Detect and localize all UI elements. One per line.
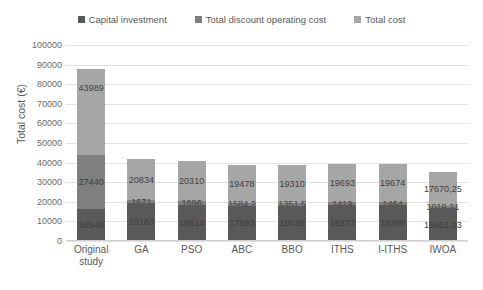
y-tick-label: 20000 (37, 197, 62, 207)
y-tick-label: 60000 (37, 118, 62, 128)
y-tick-label: 70000 (37, 99, 62, 109)
bar-value-label: 19693 (330, 178, 355, 188)
x-axis-label: Original study (66, 244, 116, 268)
gridline (66, 241, 468, 242)
stacked-bar-chart: Capital investmentTotal discount operati… (0, 0, 483, 290)
bar-value-label: 17670,25 (424, 184, 462, 194)
chart-legend: Capital investmentTotal discount operati… (0, 14, 483, 25)
bar-segment[interactable]: 18039 (278, 206, 306, 241)
bar-value-label: 19310 (280, 179, 305, 189)
bar-stack[interactable]: 193101351,518039 (278, 165, 306, 241)
x-axis-label: BBO (267, 244, 317, 268)
y-tick-label: 50000 (37, 138, 62, 148)
legend-item[interactable]: Total cost (354, 14, 405, 25)
y-tick-label: 80000 (37, 79, 62, 89)
bar-value-label: 43989 (79, 83, 104, 93)
legend-swatch-icon (354, 16, 361, 23)
bar-segment[interactable]: 19693 (328, 164, 356, 203)
bar-segment[interactable]: 17670,25 (429, 172, 457, 207)
bar-group[interactable]: 19674146418209 (368, 45, 418, 241)
y-tick-label: 90000 (37, 60, 62, 70)
bar-group[interactable]: 20834167119163 (116, 45, 166, 241)
y-axis-tick-labels: 1000009000080000700006000050000400003000… (0, 45, 62, 241)
plot-area: 4398927440165492083416711916320310169618… (66, 45, 468, 241)
bar-value-label: 16549 (79, 220, 104, 230)
bar-segment[interactable]: 19478 (228, 165, 256, 203)
bar-stack[interactable]: 439892744016549 (77, 69, 105, 241)
bar-value-label: 20310 (179, 176, 204, 186)
bar-value-label: 18273 (330, 218, 355, 228)
bar-value-label: 18209 (380, 218, 405, 228)
bar-value-label: 27440 (79, 177, 104, 187)
y-tick-label: 40000 (37, 158, 62, 168)
bar-value-label: 19163 (129, 217, 154, 227)
bar-stack[interactable]: 19693141918273 (328, 164, 356, 241)
x-axis-label: IWOA (418, 244, 468, 268)
legend-label: Capital investment (89, 14, 167, 25)
bar-segment[interactable]: 19674 (379, 164, 407, 203)
legend-label: Total discount operating cost (206, 14, 326, 25)
y-tick-label: 100000 (32, 40, 62, 50)
bar-segment[interactable]: 20310 (178, 161, 206, 201)
x-axis-label: ITHS (317, 244, 367, 268)
bar-stack[interactable]: 20834167119163 (127, 159, 155, 241)
y-tick-label: 10000 (37, 216, 62, 226)
bar-segment[interactable]: 18614 (178, 205, 206, 241)
bar-value-label: 17893 (229, 218, 254, 228)
bar-group[interactable]: 194781584,217893 (217, 45, 267, 241)
bar-segment[interactable]: 43989 (77, 69, 105, 155)
bar-stack[interactable]: 194781584,217893 (228, 165, 256, 241)
legend-label: Total cost (365, 14, 405, 25)
legend-item[interactable]: Total discount operating cost (195, 14, 326, 25)
bar-segment[interactable]: 27440 (77, 155, 105, 209)
bar-group[interactable]: 20310169618614 (167, 45, 217, 241)
bar-stack[interactable]: 19674146418209 (379, 164, 407, 241)
bar-group[interactable]: 19693141918273 (317, 45, 367, 241)
x-axis-label: PSO (167, 244, 217, 268)
bar-value-label: 18039 (280, 218, 305, 228)
bar-segment[interactable]: 18273 (328, 205, 356, 241)
bar-segment[interactable]: 19310 (278, 165, 306, 203)
bar-value-label: 20834 (129, 175, 154, 185)
bar-segment[interactable]: 16549 (77, 209, 105, 241)
bar-group[interactable]: 439892744016549 (66, 45, 116, 241)
bar-stack[interactable]: 20310169618614 (178, 161, 206, 241)
bar-series-container: 4398927440165492083416711916320310169618… (66, 45, 468, 241)
legend-swatch-icon (195, 16, 202, 23)
bar-group[interactable]: 193101351,518039 (267, 45, 317, 241)
bar-segment[interactable]: 18209 (379, 205, 407, 241)
bar-stack[interactable]: 17670,251019,2116651,03 (429, 172, 457, 241)
bar-segment[interactable]: 19163 (127, 203, 155, 241)
bar-value-label: 18614 (179, 218, 204, 228)
bar-value-label: 16651,03 (424, 220, 462, 230)
legend-item[interactable]: Capital investment (78, 14, 167, 25)
legend-swatch-icon (78, 16, 85, 23)
x-axis-label: I-ITHS (368, 244, 418, 268)
x-axis-line (66, 240, 468, 241)
bar-group[interactable]: 17670,251019,2116651,03 (418, 45, 468, 241)
bar-segment[interactable]: 20834 (127, 159, 155, 200)
y-tick-label: 30000 (37, 177, 62, 187)
x-axis-label: ABC (217, 244, 267, 268)
x-axis-label: GA (116, 244, 166, 268)
y-tick-label: 0 (57, 236, 62, 246)
bar-segment[interactable]: 17893 (228, 206, 256, 241)
bar-value-label: 19478 (229, 179, 254, 189)
bar-segment[interactable]: 16651,03 (429, 208, 457, 241)
bar-value-label: 19674 (380, 178, 405, 188)
x-axis-category-labels: Original studyGAPSOABCBBOITHSI-ITHSIWOA (66, 244, 468, 268)
